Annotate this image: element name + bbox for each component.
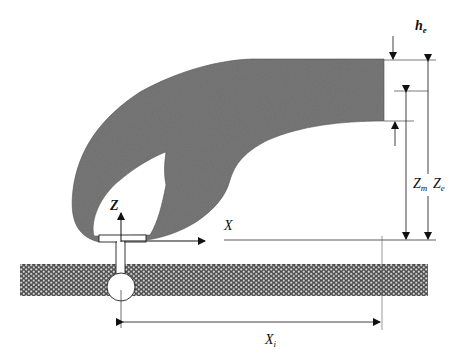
xi-label: Xi: [264, 332, 277, 349]
x-axis-label: X: [223, 218, 233, 233]
z-axis-label: Z: [109, 198, 119, 213]
ze-label: Ze: [433, 176, 445, 193]
ground-band: [20, 264, 428, 296]
he-label: he: [415, 18, 427, 35]
stack-stem: [116, 242, 125, 274]
plume-diagram: Z X he Zm Ze Xi: [0, 0, 464, 361]
